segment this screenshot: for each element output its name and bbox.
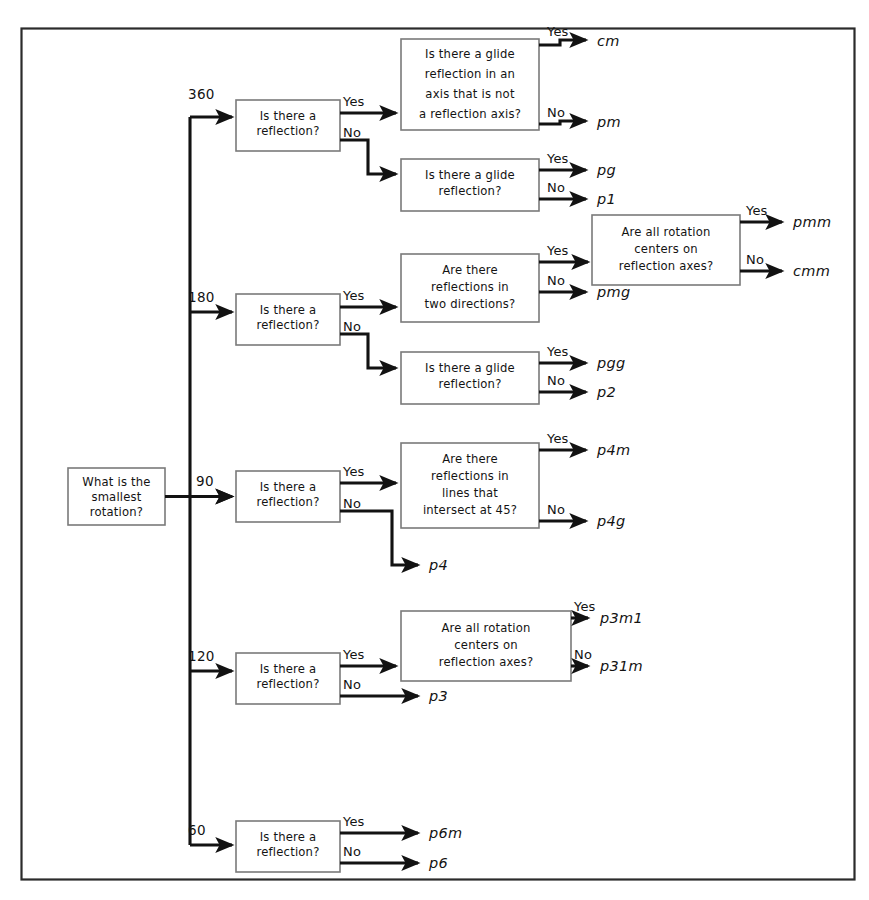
result-pmg: pmg [596, 284, 630, 300]
edge-label-60-yes: Yes [342, 814, 365, 829]
rotation-centers-180-line3: reflection axes? [619, 259, 713, 273]
result-p6: p6 [428, 855, 448, 871]
edge-label-glide180-no: No [547, 373, 565, 388]
rotation-centers-180-line2: centers on [634, 242, 697, 256]
glide-reflection-180-line2: reflection? [438, 377, 501, 391]
edge-label-intersect45-yes: Yes [546, 431, 569, 446]
branch-label-180: 180 [188, 289, 215, 305]
rotation-centers-120-line1: Are all rotation [441, 621, 530, 635]
edge-label-glide360-no: No [547, 180, 565, 195]
reflection-120-line2: reflection? [256, 677, 319, 691]
reflection-90-line2: reflection? [256, 495, 319, 509]
edge-label-twodir-no: No [547, 273, 565, 288]
edge-label-180-no: No [343, 319, 361, 334]
branch-label-120: 120 [188, 648, 215, 664]
reflection-180-line2: reflection? [256, 318, 319, 332]
edge-label-120-yes: Yes [342, 647, 365, 662]
result-p4: p4 [428, 557, 448, 573]
glide-axis-line4: a reflection axis? [419, 107, 521, 121]
rotation-centers-180-line1: Are all rotation [621, 225, 710, 239]
edge-label-rotcenters120-yes: Yes [573, 599, 596, 614]
branch-label-60: 60 [188, 822, 206, 838]
edge-label-glide180-yes: Yes [546, 344, 569, 359]
edge-label-360-no: No [343, 125, 361, 140]
edge-label-90-no: No [343, 496, 361, 511]
edge-label-glideaxis-yes: Yes [546, 24, 569, 39]
reflection-180-line1: Is there a [260, 303, 317, 317]
reflection-60-line1: Is there a [260, 830, 317, 844]
intersect45-line1: Are there [442, 452, 498, 466]
edge-label-180-yes: Yes [342, 288, 365, 303]
rotation-centers-120-line2: centers on [454, 638, 517, 652]
glide-reflection-360-line2: reflection? [438, 184, 501, 198]
edge-label-120-no: No [343, 677, 361, 692]
reflection-90-line1: Is there a [260, 480, 317, 494]
result-p4m: p4m [596, 442, 630, 458]
edge-label-intersect45-no: No [547, 502, 565, 517]
edge-label-60-no: No [343, 844, 361, 859]
branch-label-360: 360 [188, 86, 215, 102]
edge-360-no [340, 140, 396, 174]
edge-label-glide360-yes: Yes [546, 151, 569, 166]
reflection-360-line2: reflection? [256, 124, 319, 138]
intersect45-line2: reflections in [431, 469, 509, 483]
glide-axis-line2: reflection in an [425, 67, 515, 81]
result-p6m: p6m [428, 825, 462, 841]
result-cmm: cmm [793, 263, 830, 279]
edge-label-rotcenters120-no: No [574, 647, 592, 662]
glide-axis-line3: axis that is not [425, 87, 515, 101]
edge-180-no [340, 334, 396, 368]
result-pm: pm [596, 114, 621, 130]
result-p4g: p4g [596, 513, 626, 529]
rotation-centers-120-line3: reflection axes? [439, 655, 533, 669]
result-p2: p2 [596, 384, 616, 400]
edge-label-glideaxis-no: No [547, 105, 565, 120]
result-pg: pg [596, 162, 616, 178]
result-p3: p3 [428, 688, 448, 704]
edge-label-90-yes: Yes [342, 464, 365, 479]
intersect45-line4: intersect at 45? [423, 503, 517, 517]
glide-reflection-180-line1: Is there a glide [425, 361, 515, 375]
start-label-line1: What is the [82, 475, 150, 489]
start-label-line3: rotation? [90, 505, 143, 519]
result-pmm: pmm [792, 214, 831, 230]
start-label-line2: smallest [91, 490, 141, 504]
flowchart-canvas: What is the smallest rotation? 360 180 9… [0, 0, 869, 900]
result-p1: p1 [596, 191, 616, 207]
two-directions-line3: two directions? [425, 297, 516, 311]
flowchart-svg: What is the smallest rotation? 360 180 9… [0, 0, 869, 900]
glide-reflection-360-line1: Is there a glide [425, 168, 515, 182]
two-directions-line2: reflections in [431, 280, 509, 294]
edge-label-rotcenters180-yes: Yes [745, 203, 768, 218]
edge-glideaxis-yes [539, 40, 586, 45]
edge-label-twodir-yes: Yes [546, 243, 569, 258]
glide-axis-line1: Is there a glide [425, 47, 515, 61]
reflection-360-line1: Is there a [260, 109, 317, 123]
result-cm: cm [597, 33, 620, 49]
result-pgg: pgg [596, 355, 626, 371]
two-directions-line1: Are there [442, 263, 498, 277]
reflection-120-line1: Is there a [260, 662, 317, 676]
edge-label-360-yes: Yes [342, 94, 365, 109]
edge-label-rotcenters180-no: No [746, 252, 764, 267]
result-p31m: p31m [599, 658, 643, 674]
branch-label-90: 90 [196, 473, 214, 489]
edge-glideaxis-no [539, 121, 586, 124]
reflection-60-line2: reflection? [256, 845, 319, 859]
result-p3m1: p3m1 [599, 610, 643, 626]
intersect45-line3: lines that [442, 486, 498, 500]
